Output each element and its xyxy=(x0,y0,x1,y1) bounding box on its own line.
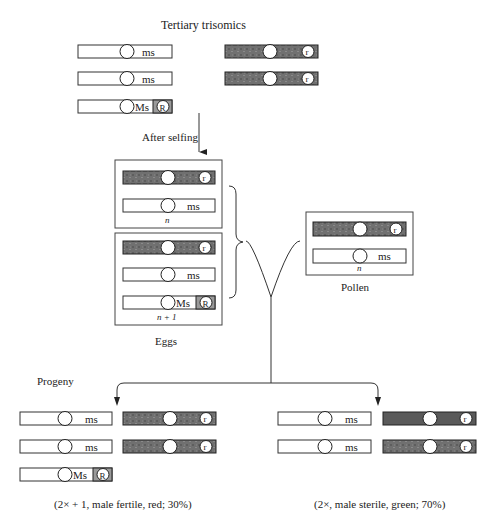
svg-text:ms: ms xyxy=(187,200,200,212)
pollen-ploidy-label: n xyxy=(357,263,362,273)
eggs-label: Eggs xyxy=(155,335,177,347)
progeny-left-chromosome-ms-1: ms xyxy=(20,412,112,426)
svg-text:r: r xyxy=(203,173,206,183)
arrow-right-icon xyxy=(375,397,381,406)
svg-text:R: R xyxy=(203,299,209,309)
svg-text:R: R xyxy=(100,471,106,481)
svg-text:r: r xyxy=(204,414,207,424)
egg-n-chromosome-r: r xyxy=(123,171,215,185)
arrow-left-icon xyxy=(114,397,120,406)
pollen-label: Pollen xyxy=(341,281,370,293)
progeny-right-chromosome-ms-2: ms xyxy=(278,440,371,454)
svg-text:ms: ms xyxy=(142,46,155,58)
parent-chromosome-Ms-R: Ms R xyxy=(78,100,172,114)
svg-text:R: R xyxy=(160,103,166,113)
tertiary-trisomic-diagram: Tertiary trisomics ms ms Ms R r r After … xyxy=(0,0,499,526)
svg-text:r: r xyxy=(394,225,397,235)
parent-chromosome-r-1: r xyxy=(225,45,318,59)
progeny-right-chromosome-ms-1: ms xyxy=(278,412,371,426)
svg-text:r: r xyxy=(204,442,207,452)
svg-text:r: r xyxy=(464,414,467,424)
svg-text:ms: ms xyxy=(187,269,200,281)
svg-text:Ms: Ms xyxy=(135,101,149,113)
egg-n1-chromosome-ms: ms xyxy=(123,268,215,282)
egg-n1-ploidy-label: n + 1 xyxy=(157,312,177,322)
progeny-right-chromosome-r-2: r xyxy=(383,440,476,454)
pollen-chromosome-r: r xyxy=(313,222,406,236)
svg-text:ms: ms xyxy=(85,441,98,453)
progeny-right-caption: (2×, male sterile, green; 70%) xyxy=(314,498,446,511)
progeny-label: Progeny xyxy=(37,375,74,387)
svg-text:ms: ms xyxy=(378,250,391,262)
progeny-split-line xyxy=(117,383,378,398)
svg-text:ms: ms xyxy=(345,441,358,453)
svg-text:r: r xyxy=(203,243,206,253)
parent-chromosome-ms-2: ms xyxy=(78,72,172,86)
egg-n-ploidy-label: n xyxy=(165,215,170,225)
parent-chromosome-ms-1: ms xyxy=(78,45,172,59)
progeny-left-chromosome-r-2: r xyxy=(123,440,216,454)
egg-n1-chromosome-r: r xyxy=(123,241,215,255)
progeny-left-chromosome-r-1: r xyxy=(123,412,216,426)
progeny-left-chromosome-Ms-R: Ms R xyxy=(20,468,112,482)
fertilization-junction xyxy=(246,241,300,297)
egg-n-chromosome-ms: ms xyxy=(123,199,215,213)
progeny-left-chromosome-ms-2: ms xyxy=(20,440,112,454)
svg-text:r: r xyxy=(464,442,467,452)
after-selfing-label: After selfing xyxy=(142,131,198,143)
progeny-right-chromosome-r-1: r xyxy=(383,412,476,426)
svg-text:ms: ms xyxy=(85,413,98,425)
title: Tertiary trisomics xyxy=(161,18,246,32)
svg-text:ms: ms xyxy=(345,413,358,425)
pollen-chromosome-ms: ms xyxy=(313,249,406,263)
svg-text:ms: ms xyxy=(142,73,155,85)
svg-text:r: r xyxy=(306,47,309,57)
svg-text:Ms: Ms xyxy=(73,469,87,481)
svg-text:r: r xyxy=(306,74,309,84)
brace xyxy=(229,186,243,298)
parent-chromosome-r-2: r xyxy=(225,72,318,86)
progeny-left-caption: (2× + 1, male fertile, red; 30%) xyxy=(54,498,192,511)
svg-text:Ms: Ms xyxy=(176,297,190,309)
egg-n1-chromosome-Ms-R: Ms R xyxy=(123,296,215,310)
